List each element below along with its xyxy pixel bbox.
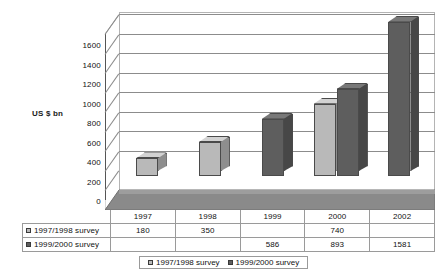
bar-side-face [284,114,293,171]
legend-swatch-icon [228,260,233,265]
bar-side-face [410,17,419,171]
bar-front-face [314,104,336,176]
table-corner-cell [23,210,111,224]
table-cell: 350 [175,224,240,238]
legend-item: 1997/1998 survey [148,258,220,267]
table-cell [111,238,176,252]
y-tick-label: 0 [96,197,101,206]
bar-1999-series2 [262,119,284,176]
y-axis-line [105,34,106,200]
table-category-header: 1999 [240,210,305,224]
series-swatch-icon [26,228,31,233]
bar-1997-series1 [136,158,158,176]
bar-side-face [221,137,230,171]
y-tick-label: 1600 [82,41,101,50]
y-tick-label: 600 [87,139,101,148]
table-row-label: 1999/2000 survey [34,240,99,249]
table-row-header: 1997/1998 survey [23,224,111,238]
plot-area [105,12,435,210]
bar-2000-series1 [314,104,336,176]
table-category-header: 2000 [305,210,370,224]
y-tick-label: 400 [87,158,101,167]
table-cell: 180 [111,224,176,238]
legend: 1997/1998 survey1999/2000 survey [139,256,308,269]
y-tick-label: 1400 [82,61,101,70]
y-tick-label: 200 [87,178,101,187]
table-row-label: 1997/1998 survey [34,226,99,235]
y-tick-label: 800 [87,119,101,128]
bar-front-face [136,158,158,176]
bar-1998-series1 [199,142,221,176]
table-row-header: 1999/2000 survey [23,238,111,252]
table-cell: 586 [240,238,305,252]
y-tick-label: 1200 [82,80,101,89]
bar-2000-series2 [337,89,359,176]
bar-front-face [337,89,359,176]
bar-front-face [262,119,284,176]
table-category-header: 2002 [370,210,435,224]
table-cell: 740 [305,224,370,238]
bar-2002-series2 [388,22,410,176]
table-category-row: 19971998199920002002 [23,210,435,224]
bar-front-face [199,142,221,176]
table-cell: 1581 [370,238,435,252]
table-row: 1997/1998 survey180350740 [23,224,435,238]
y-tick-label: 1000 [82,100,101,109]
data-table: 199719981999200020021997/1998 survey1803… [22,210,435,252]
bar-front-face [388,22,410,176]
legend-swatch-icon [148,260,153,265]
table-category-header: 1998 [175,210,240,224]
table-category-header: 1997 [111,210,176,224]
floor [105,176,435,210]
table-row: 1999/2000 survey5868931581 [23,238,435,252]
table-cell [240,224,305,238]
chart-figure: 16001400120010008006004002000 US $ bn 19… [0,0,439,278]
legend-item: 1999/2000 survey [228,258,300,267]
series-swatch-icon [26,242,31,247]
y-axis-title: US $ bn [32,109,63,118]
bar-side-face [359,84,368,171]
gridline [119,14,435,15]
legend-label: 1997/1998 survey [156,258,220,267]
table-cell: 893 [305,238,370,252]
table-cell [175,238,240,252]
table-cell [370,224,435,238]
legend-label: 1999/2000 survey [236,258,300,267]
